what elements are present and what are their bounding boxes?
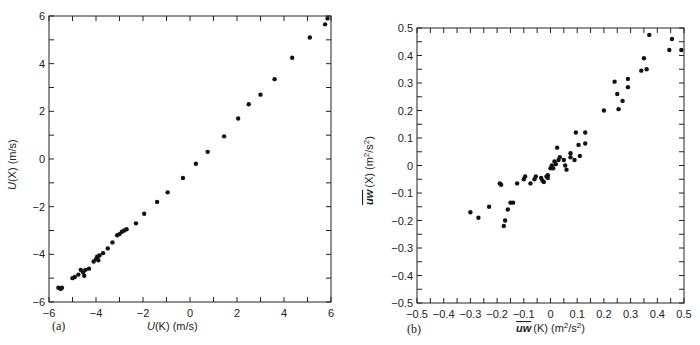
data-points-b	[468, 33, 683, 229]
data-point	[155, 200, 159, 204]
data-point	[258, 92, 262, 96]
x-tick-label-a: 4	[281, 307, 287, 319]
data-point	[101, 251, 105, 255]
data-point	[647, 33, 651, 37]
data-point	[616, 107, 620, 111]
y-axis-label-a: U(X) (m/s)	[6, 139, 18, 190]
y-tick-label-b: −0.2	[391, 215, 413, 227]
x-tick-label-a: 2	[234, 307, 240, 319]
y-tick-label-b: −0.4	[391, 270, 413, 282]
x-tick-label-a: −4	[90, 307, 103, 319]
data-point	[576, 143, 580, 147]
data-point	[554, 162, 558, 166]
data-point	[106, 246, 110, 250]
data-point	[503, 218, 507, 222]
scatter-plot-b: −0.5−0.4−0.3−0.2−0.100.10.20.30.40.5−0.5…	[362, 22, 692, 336]
x-tick-label-b: 0.3	[623, 308, 638, 320]
data-point	[308, 35, 312, 39]
data-point	[615, 92, 619, 96]
data-point	[578, 154, 582, 158]
data-point	[626, 77, 630, 81]
x-tick-label-b: 0	[547, 308, 553, 320]
data-point	[558, 155, 562, 159]
data-point	[142, 212, 146, 216]
x-tick-label-b: 0.5	[676, 308, 691, 320]
data-point	[568, 151, 572, 155]
data-point	[290, 56, 294, 60]
data-point	[551, 166, 555, 170]
data-point	[325, 16, 329, 20]
data-point	[82, 274, 86, 278]
data-point	[563, 163, 567, 167]
data-point	[602, 108, 606, 112]
x-axis-label-a: U(K) (m/s)	[147, 320, 198, 332]
data-point	[670, 37, 674, 41]
y-tick-label-b: −0.3	[391, 242, 413, 254]
data-point	[572, 158, 576, 162]
data-point	[542, 180, 546, 184]
data-point	[626, 85, 630, 89]
data-point	[468, 210, 472, 214]
y-tick-label-a: 0	[39, 153, 45, 165]
data-point	[568, 155, 572, 159]
y-tick-label-a: −2	[32, 201, 45, 213]
data-point	[181, 176, 185, 180]
data-point	[76, 272, 80, 276]
data-point	[515, 181, 519, 185]
data-point	[639, 68, 643, 72]
data-point	[487, 205, 491, 209]
y-tick-label-b: −0.1	[391, 187, 413, 199]
data-point	[534, 174, 538, 178]
data-point	[644, 67, 648, 71]
data-point	[502, 224, 506, 228]
data-point	[236, 116, 240, 120]
data-point	[583, 141, 587, 145]
data-point	[60, 286, 64, 290]
y-tick-label-b: −0.5	[391, 297, 413, 309]
data-point	[511, 200, 515, 204]
x-tick-label-a: 0	[187, 307, 193, 319]
data-point	[506, 207, 510, 211]
data-point	[134, 221, 138, 225]
y-tick-label-b: 0.4	[398, 50, 413, 62]
panel-label-b: (b)	[407, 322, 421, 336]
y-tick-label-a: 2	[39, 105, 45, 117]
data-point	[96, 258, 100, 262]
data-point	[642, 56, 646, 60]
data-point	[555, 145, 559, 149]
data-point	[612, 79, 616, 83]
figure-canvas: −6−4−20246−6−4−20246 (a) U(K) (m/s) U(X)…	[0, 0, 700, 345]
data-point	[523, 174, 527, 178]
data-point	[574, 130, 578, 134]
data-point	[583, 130, 587, 134]
data-point	[222, 134, 226, 138]
plot-frame-a	[49, 16, 331, 302]
data-point	[165, 190, 169, 194]
data-point	[620, 99, 624, 103]
x-axis-label-b: uw(K) (m2/s2)	[516, 321, 585, 334]
y-tick-label-a: 4	[39, 58, 45, 70]
x-tick-label-b: −0.4	[433, 308, 455, 320]
x-tick-label-b: −0.1	[513, 308, 535, 320]
data-point	[562, 158, 566, 162]
x-tick-label-b: −0.3	[460, 308, 482, 320]
data-points-a	[56, 16, 329, 291]
data-point	[667, 48, 671, 52]
x-tick-label-b: 0.1	[570, 308, 585, 320]
y-tick-label-b: 0.3	[398, 77, 413, 89]
ticks-b: −0.5−0.4−0.3−0.2−0.100.10.20.30.40.5−0.5…	[391, 22, 691, 320]
panel-label-a: (a)	[52, 319, 65, 333]
y-tick-label-b: 0.2	[398, 105, 413, 117]
data-point	[194, 162, 198, 166]
data-point	[323, 22, 327, 26]
data-point	[87, 266, 91, 270]
data-point	[546, 176, 550, 180]
data-point	[110, 240, 114, 244]
x-tick-label-b: 0.4	[650, 308, 665, 320]
data-point	[247, 102, 251, 106]
scatter-plot-a: −6−4−20246−6−4−20246 (a) U(K) (m/s) U(X)…	[6, 10, 334, 333]
data-point	[476, 216, 480, 220]
x-tick-label-b: −0.5	[406, 308, 428, 320]
data-point	[679, 48, 683, 52]
x-tick-label-a: −2	[137, 307, 150, 319]
